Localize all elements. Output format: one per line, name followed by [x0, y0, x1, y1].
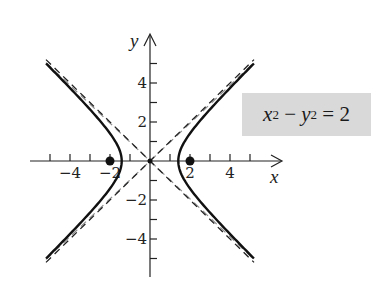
x-tick-label: 4 [225, 164, 235, 182]
x-tick-label: 2 [185, 164, 195, 182]
eq-rhs: 2 [339, 102, 350, 127]
focus-right-point [186, 157, 195, 166]
center-point [148, 159, 153, 164]
hyperbola-plot: −4−224 42−2−4 x y [0, 0, 385, 294]
x-tick-label: −4 [59, 164, 81, 182]
focus-left-point [106, 157, 115, 166]
x-tick-label: −2 [99, 164, 121, 182]
x-tick-labels: −4−224 [59, 164, 235, 182]
eq-x: x [263, 102, 272, 127]
y-tick-label: 4 [137, 74, 147, 92]
eq-minus: − [279, 102, 301, 127]
equation-label: x2 − y2 = 2 [242, 93, 371, 136]
eq-y: y [301, 102, 310, 127]
y-tick-label: −2 [125, 191, 147, 209]
y-tick-label: 2 [137, 113, 147, 131]
y-tick-label: −4 [125, 230, 147, 248]
eq-equals: = [317, 102, 339, 127]
y-axis-label: y [128, 30, 139, 51]
x-axis-label: x [269, 166, 279, 187]
